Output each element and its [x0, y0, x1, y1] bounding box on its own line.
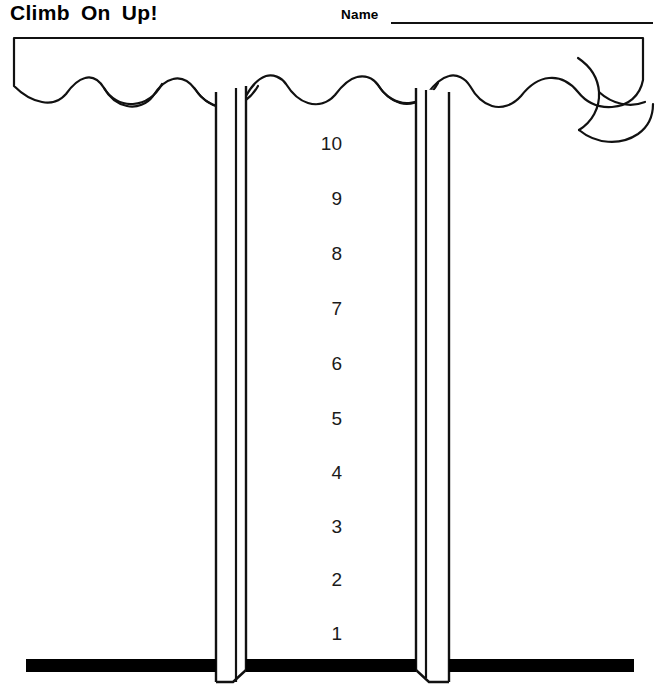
left-pole	[216, 86, 246, 682]
name-write-in-line[interactable]	[391, 22, 653, 24]
rung-number: 4	[296, 463, 342, 483]
name-field-block: Name	[341, 7, 653, 29]
right-pole	[416, 88, 449, 682]
right-pole-fill	[416, 88, 449, 682]
rung-number: 8	[296, 244, 342, 264]
rung-number: 1	[296, 624, 342, 644]
rung-number: 9	[296, 189, 342, 209]
rung-number: 10	[296, 134, 342, 154]
worksheet-page: Climb On Up! Name	[0, 0, 659, 699]
rung-number: 6	[296, 354, 342, 374]
rung-number: 2	[296, 570, 342, 590]
ground-bar-right	[449, 659, 634, 672]
rung-number: 5	[296, 409, 342, 429]
rung-number: 3	[296, 517, 342, 537]
ground-bar-left	[26, 659, 216, 672]
name-label: Name	[341, 7, 379, 22]
page-title: Climb On Up!	[10, 1, 158, 25]
rung-number: 7	[296, 299, 342, 319]
canopy-scallop-accent-6	[579, 104, 653, 142]
left-pole-fill	[216, 86, 246, 682]
ladder-rung-numbers: 10 9 8 7 6 5 4 3 2 1	[296, 0, 342, 699]
